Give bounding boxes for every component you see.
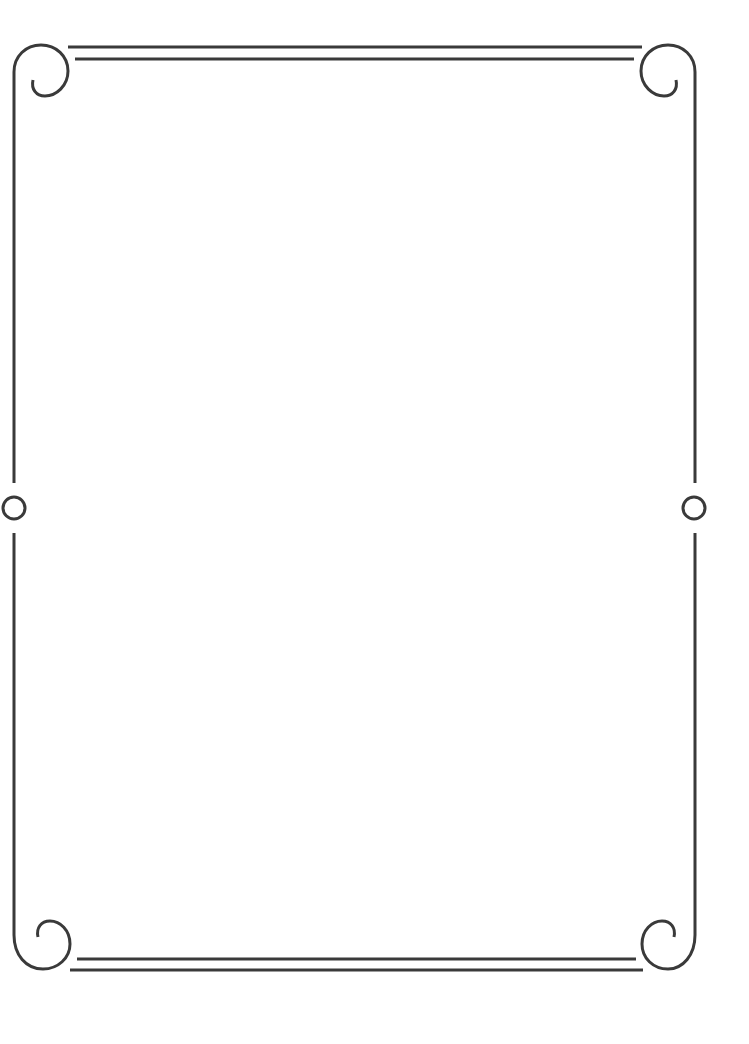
page-content-area: [30, 80, 680, 940]
left-circle-icon: [3, 497, 25, 519]
right-circle-icon: [683, 497, 705, 519]
